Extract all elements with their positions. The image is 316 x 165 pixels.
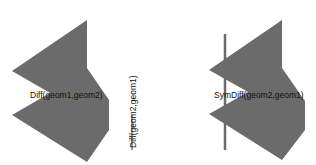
symdiff-geom2-geom1-label: SymDiff(geom2,geom1) — [214, 90, 304, 100]
diff-geom1-geom2-label: Diff(geom1,geom2) — [30, 90, 103, 100]
diagram-canvas: Diff(geom1,geom2) Diff(geom2,geom1) SymD… — [0, 0, 316, 165]
diff-geom2-geom1-label: Diff(geom2,geom1) — [128, 75, 138, 148]
